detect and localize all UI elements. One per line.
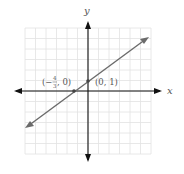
y-intercept-point (86, 79, 90, 83)
y-intercept-label: (0, 1) (95, 77, 118, 87)
y-axis-arrow-up-icon (85, 21, 91, 29)
y-axis-label: y (83, 5, 90, 16)
y-axis-arrow-down-icon (85, 154, 91, 162)
x-axis-arrow-right-icon (154, 88, 162, 94)
x-intercept-label: (− 4 3 , 0) (42, 75, 71, 89)
svg-text:, 0): , 0) (57, 77, 71, 87)
x-intercept-point (72, 89, 76, 93)
x-axis-label: x (167, 85, 173, 96)
x-axis-arrow-left-icon (14, 88, 22, 94)
coordinate-plane: y x (− 4 3 , 0) (0, 1) (0, 0, 184, 174)
svg-text:(−: (− (42, 77, 52, 87)
